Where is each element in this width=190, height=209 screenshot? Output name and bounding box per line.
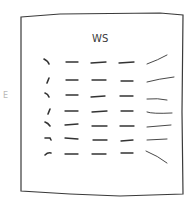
sheet-title: WS <box>92 33 109 44</box>
tail-stroke <box>147 139 167 140</box>
row-4 <box>48 109 172 114</box>
tail-stroke <box>146 151 167 163</box>
dash-3 <box>121 140 133 141</box>
tail-stroke <box>147 55 167 64</box>
tail-stroke <box>147 112 172 113</box>
lead-mark <box>45 93 49 97</box>
lead-mark <box>45 122 50 126</box>
lead-mark <box>47 78 49 83</box>
dash-3 <box>119 62 134 63</box>
tail-stroke <box>147 99 167 100</box>
dash-2 <box>91 62 106 63</box>
row-2 <box>47 77 174 83</box>
dash-2 <box>91 96 105 97</box>
row-1 <box>44 55 167 64</box>
sketch-canvas: E <box>0 0 190 209</box>
tail-stroke <box>147 125 171 127</box>
row-5 <box>45 122 171 127</box>
lead-mark <box>48 109 50 114</box>
lead-mark <box>45 138 51 140</box>
lead-mark <box>44 59 49 64</box>
dash-2 <box>92 111 107 112</box>
dash-1 <box>65 124 78 125</box>
tail-stroke <box>147 77 174 82</box>
dash-1 <box>65 138 78 139</box>
sketch-drawing <box>0 0 190 209</box>
row-6 <box>45 138 167 141</box>
row-7 <box>45 151 167 163</box>
row-3 <box>45 93 167 100</box>
lead-mark <box>45 153 51 155</box>
